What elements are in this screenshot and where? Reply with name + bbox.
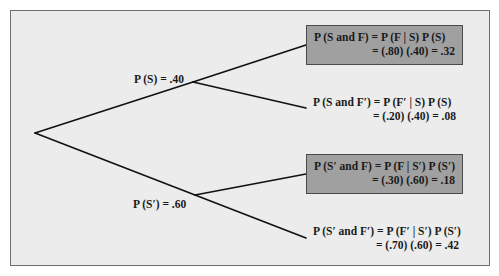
outcome-S-and-F-formula: P (S and F) = P (F | S) P (S)	[314, 30, 445, 44]
outcome-S-and-F-prime-box: P (S and F′) = P (F′ | S) P (S) = (.20) …	[306, 95, 463, 125]
outcome-S-and-F-prime-formula: P (S and F′) = P (F′ | S) P (S)	[313, 95, 451, 109]
outcome-S-prime-and-F-result: = (.30) (.60) = .18	[372, 173, 455, 187]
branch-S-prime-to-F	[195, 174, 306, 195]
outcome-S-prime-and-F-prime-result: = (.70) (.60) = .42	[376, 238, 459, 252]
branch-S-to-F	[193, 45, 306, 82]
branch-S-prime-to-F-prime	[195, 195, 306, 238]
outcome-S-prime-and-F-prime-box: P (S′ and F′) = P (F′ | S′) P (S′) = (.7…	[306, 224, 466, 254]
probability-S-prime-label: P (S′) = .60	[133, 199, 186, 211]
branch-root-to-S	[35, 82, 193, 133]
outcome-S-prime-and-F-prime-formula: P (S′ and F′) = P (F′ | S′) P (S′)	[313, 224, 461, 238]
outcome-S-and-F-box: P (S and F) = P (F | S) P (S) = (.80) (.…	[306, 25, 463, 65]
outcome-S-and-F-result: = (.80) (.40) = .32	[372, 44, 455, 58]
branch-root-to-S-prime	[35, 133, 195, 195]
probability-S-label: P (S) = .40	[134, 74, 184, 86]
branch-S-to-F-prime	[193, 82, 306, 108]
outcome-S-prime-and-F-formula: P (S′ and F) = P (F | S′) P (S′)	[314, 159, 455, 173]
outcome-S-prime-and-F-box: P (S′ and F) = P (F | S′) P (S′) = (.30)…	[306, 154, 463, 194]
outcome-S-and-F-prime-result: = (.20) (.40) = .08	[373, 109, 456, 123]
